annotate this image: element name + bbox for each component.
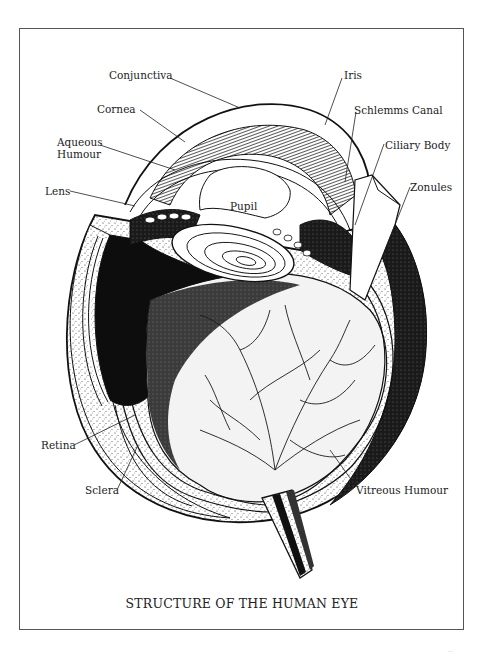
- leader-lens: [70, 191, 135, 206]
- label-retina: Retina: [41, 439, 76, 451]
- page-number: ..: [448, 645, 453, 654]
- eye-illustration: [0, 0, 484, 660]
- label-schlemms-canal: Schlemms Canal: [354, 104, 443, 116]
- label-aqueous-humour-line1: Aqueous: [57, 136, 103, 148]
- figure-caption: STRUCTURE OF THE HUMAN EYE: [0, 596, 484, 611]
- leader-cornea: [140, 110, 185, 142]
- label-iris: Iris: [344, 69, 362, 81]
- label-vitreous-humour: Vitreous Humour: [356, 484, 448, 496]
- label-ciliary-body: Ciliary Body: [385, 139, 450, 151]
- leader-conjunctiva: [170, 78, 240, 108]
- label-aqueous-humour-line2: Humour: [57, 148, 101, 160]
- leader-schlemms: [345, 112, 356, 182]
- label-lens: Lens: [45, 185, 70, 197]
- label-sclera: Sclera: [85, 484, 119, 496]
- label-cornea: Cornea: [97, 103, 136, 115]
- label-conjunctiva: Conjunctiva: [109, 69, 173, 81]
- label-zonules: Zonules: [410, 181, 452, 193]
- leader-iris: [325, 78, 342, 125]
- label-pupil: Pupil: [230, 200, 257, 212]
